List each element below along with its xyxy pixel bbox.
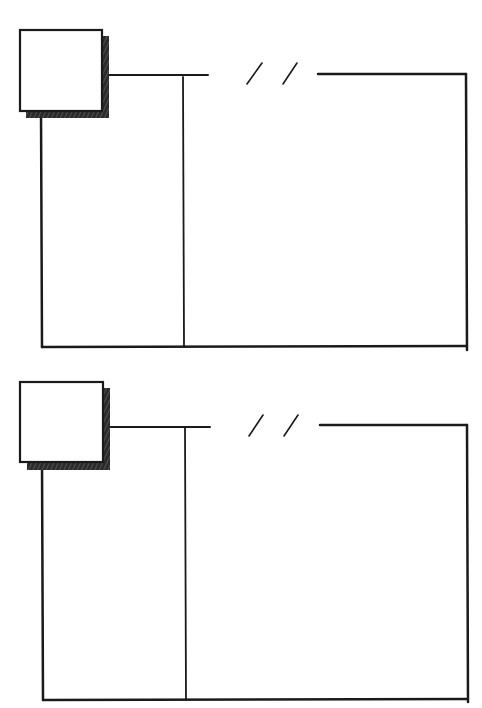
panel-1-sketch <box>0 0 482 354</box>
wireframe-panel-1 <box>0 0 482 354</box>
panel-2-sketch <box>0 354 482 708</box>
break-marker-icon <box>247 63 297 84</box>
thumbnail-square <box>20 382 103 462</box>
thumbnail-square <box>20 30 102 111</box>
wireframe-panel-2 <box>0 354 482 708</box>
break-marker-icon <box>249 415 298 436</box>
